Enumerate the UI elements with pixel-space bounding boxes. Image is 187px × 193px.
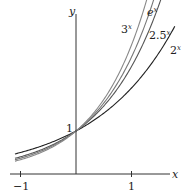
curve-2-x xyxy=(15,26,175,154)
y-axis-label: y xyxy=(68,5,76,18)
curve-2-5-x xyxy=(15,0,165,158)
curve-e-x xyxy=(15,0,156,160)
tick-label-1: 1 xyxy=(128,180,135,193)
chart-canvas: x y −1 1 1 3x ex 2.5x 2x xyxy=(0,0,187,193)
label-3x: 3x xyxy=(121,23,132,36)
y-intercept-label: 1 xyxy=(66,122,73,135)
exponential-functions-chart: x y −1 1 1 3x ex 2.5x 2x xyxy=(0,0,187,193)
tick-label-neg1: −1 xyxy=(13,180,29,193)
label-2x: 2x xyxy=(170,44,181,57)
label-ex: ex xyxy=(147,6,158,19)
x-axis-label: x xyxy=(172,168,179,181)
curves xyxy=(15,0,175,161)
